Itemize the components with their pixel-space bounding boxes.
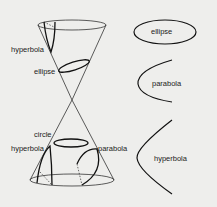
cone-side-left-top xyxy=(38,25,72,100)
conic-sections-diagram: hyperbola ellipse circle hyperbola parab… xyxy=(0,0,217,207)
hyperbola-top-dashed xyxy=(44,22,54,27)
label-ellipse-curve: ellipse xyxy=(151,27,172,36)
cone-labels: hyperbola ellipse circle hyperbola parab… xyxy=(11,45,128,153)
label-circle: circle xyxy=(34,130,52,139)
label-ellipse-cone: ellipse xyxy=(34,67,55,76)
cone-top-rim xyxy=(38,20,106,30)
curve-labels: ellipse parabola hyperbola xyxy=(151,27,188,163)
cone-bottom-rim-front xyxy=(30,180,114,186)
label-parabola-curve: parabola xyxy=(152,79,182,88)
circle-section xyxy=(54,139,88,147)
hyperbola-bottom-dashed xyxy=(40,172,52,185)
label-hyperbola-bottom: hyperbola xyxy=(11,144,45,153)
cone-sections xyxy=(37,22,99,185)
ellipse-section xyxy=(58,57,91,74)
label-hyperbola-top: hyperbola xyxy=(11,45,45,54)
label-hyperbola-curve: hyperbola xyxy=(154,154,188,163)
label-parabola-cone: parabola xyxy=(98,144,128,153)
parabola-section xyxy=(77,149,99,185)
isolated-curves xyxy=(134,20,196,194)
